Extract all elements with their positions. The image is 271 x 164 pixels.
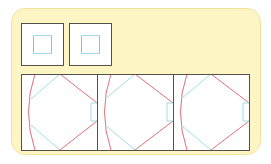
thumbnail-2 bbox=[70, 24, 112, 66]
panel-1 bbox=[22, 74, 98, 151]
panel-3 bbox=[174, 74, 250, 151]
diagram-canvas bbox=[0, 0, 271, 164]
panel-2 bbox=[98, 74, 174, 151]
thumbnail-1 bbox=[22, 24, 64, 66]
